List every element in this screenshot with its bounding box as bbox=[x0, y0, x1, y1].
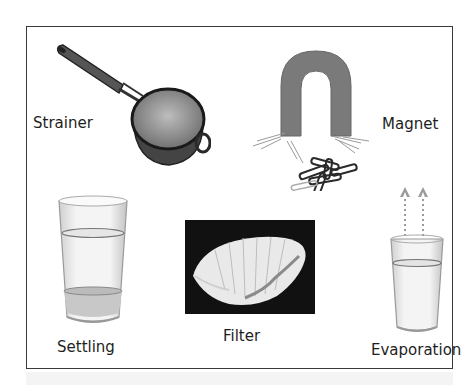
magnet-image bbox=[251, 41, 381, 191]
strainer-image bbox=[51, 41, 211, 171]
evaporation-label: Evaporation bbox=[371, 341, 461, 359]
bottom-strip bbox=[26, 372, 453, 385]
strainer-icon bbox=[51, 41, 211, 171]
glass-with-sediment-icon bbox=[55, 193, 131, 329]
horseshoe-magnet-icon bbox=[251, 41, 381, 191]
settling-image bbox=[55, 193, 131, 329]
settling-label: Settling bbox=[57, 338, 115, 356]
magnet-label: Magnet bbox=[382, 115, 438, 133]
glass-with-vapor-arrows-icon bbox=[389, 175, 445, 333]
filter-image bbox=[185, 220, 315, 314]
coffee-filter-icon bbox=[185, 220, 315, 314]
strainer-label: Strainer bbox=[33, 114, 93, 132]
evaporation-image bbox=[389, 175, 445, 333]
diagram-frame: Strainer Magnet bbox=[26, 26, 453, 369]
filter-label: Filter bbox=[223, 327, 260, 345]
